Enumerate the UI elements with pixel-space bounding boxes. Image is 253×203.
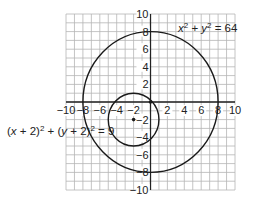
x-tick-label: 6 — [198, 104, 204, 116]
small-circle-equation: (x + 2)2 + (y + 2)2 = 9 — [7, 124, 114, 137]
center-point — [132, 118, 136, 122]
intersection-point — [149, 100, 153, 104]
coordinate-graph: −10−8−6−4−2246810108642−2−4−6−8−10 x2 + … — [0, 0, 253, 203]
x-tick-label: −10 — [57, 104, 76, 116]
y-tick-label: −6 — [136, 149, 149, 161]
y-tick-label: −10 — [130, 184, 149, 196]
y-tick-label: −2 — [136, 114, 149, 126]
big-circle-equation: x2 + y2 = 64 — [177, 21, 238, 34]
y-tick-label: 10 — [136, 8, 148, 20]
y-tick-label: −4 — [136, 131, 149, 143]
y-tick-label: 6 — [142, 43, 148, 55]
x-tick-label: −6 — [94, 104, 107, 116]
x-tick-label: 2 — [164, 104, 170, 116]
y-tick-label: 2 — [142, 78, 148, 90]
y-tick-label: 4 — [142, 61, 148, 73]
x-tick-label: 10 — [229, 104, 241, 116]
x-tick-label: 4 — [181, 104, 187, 116]
